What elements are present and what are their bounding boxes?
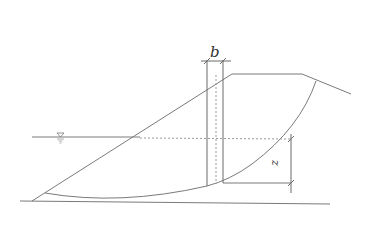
slip-surface-arc (45, 81, 316, 198)
ground-line (20, 201, 330, 204)
b-label: b (210, 43, 220, 61)
z-label: z (269, 159, 282, 166)
water-line-dotted (140, 138, 292, 139)
water-level-triangle-icon (57, 133, 64, 143)
slope-diagram: b z (0, 0, 385, 230)
